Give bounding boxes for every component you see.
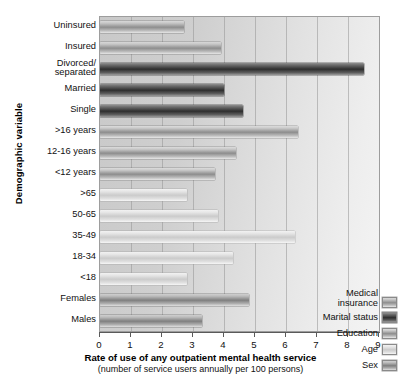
- legend-swatch: [382, 297, 397, 308]
- bar: [100, 147, 236, 159]
- legend-item: Education: [272, 326, 397, 340]
- category-label: Single: [18, 105, 96, 115]
- x-axis-tick-label: 1: [120, 339, 140, 350]
- bar: [100, 126, 298, 138]
- legend-item: Marital status: [272, 310, 397, 324]
- category-label: 18-34: [18, 252, 96, 262]
- category-label: Males: [18, 315, 96, 325]
- legend-label: Medical insurance: [338, 288, 378, 308]
- legend-label: Marital status: [323, 312, 378, 322]
- x-axis-tick: [192, 332, 193, 337]
- category-label: Females: [18, 294, 96, 304]
- chart-figure: Demographic variable UninsuredInsuredDiv…: [0, 0, 401, 376]
- x-axis-tick-label: 9: [368, 339, 388, 350]
- bar: [100, 168, 215, 180]
- bar: [100, 210, 218, 222]
- legend-swatch: [382, 312, 397, 323]
- gridline: [379, 17, 380, 331]
- x-axis-tick: [161, 332, 162, 337]
- legend-swatch: [382, 328, 397, 339]
- legend-item: Medical insurance: [272, 286, 397, 308]
- bar: [100, 42, 221, 54]
- x-axis-tick-label: 6: [275, 339, 295, 350]
- x-axis-tick-label: 3: [182, 339, 202, 350]
- category-label: <18: [18, 273, 96, 283]
- bar: [100, 315, 202, 327]
- category-label: Married: [18, 84, 96, 94]
- category-label: Uninsured: [18, 21, 96, 31]
- category-label: 50-65: [18, 210, 96, 220]
- category-label-column: UninsuredInsuredDivorced/ separatedMarri…: [18, 16, 96, 332]
- legend-label: Education: [337, 328, 378, 338]
- x-axis-title: Rate of use of any outpatient mental hea…: [0, 352, 401, 363]
- category-label: <12 years: [18, 168, 96, 178]
- category-label: 12-16 years: [18, 147, 96, 157]
- x-axis-tick: [223, 332, 224, 337]
- bar: [100, 231, 295, 243]
- plot-area: [99, 16, 380, 332]
- x-axis-tick-label: 4: [213, 339, 233, 350]
- bar: [100, 189, 187, 201]
- x-axis-tick-label: 5: [244, 339, 264, 350]
- category-label: 35-49: [18, 231, 96, 241]
- x-axis-tick-label: 0: [89, 339, 109, 350]
- bar: [100, 294, 249, 306]
- category-label: Insured: [18, 42, 96, 52]
- x-axis-tick: [130, 332, 131, 337]
- bar: [100, 105, 243, 117]
- x-axis-tick: [254, 332, 255, 337]
- category-label: Divorced/ separated: [18, 59, 96, 78]
- category-label: >16 years: [18, 126, 96, 136]
- x-axis-tick: [99, 332, 100, 337]
- bar: [100, 273, 187, 285]
- bar: [100, 84, 224, 96]
- bar: [100, 21, 184, 33]
- bar: [100, 63, 364, 75]
- x-axis-tick-label: 2: [151, 339, 171, 350]
- category-label: >65: [18, 189, 96, 199]
- x-axis-subtitle: (number of service users annually per 10…: [0, 364, 401, 374]
- x-axis-tick-label: 7: [306, 339, 326, 350]
- bar: [100, 252, 233, 264]
- x-axis-tick-label: 8: [337, 339, 357, 350]
